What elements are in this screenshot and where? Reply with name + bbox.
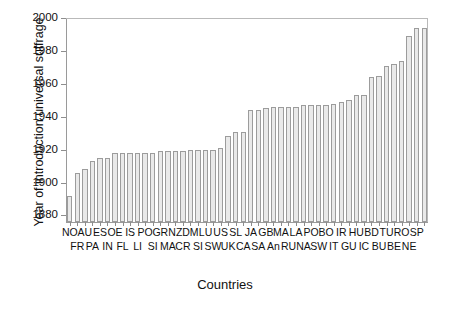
x-axis-tick-label: PO bbox=[138, 226, 153, 238]
bar bbox=[210, 150, 215, 222]
bar bbox=[406, 36, 411, 222]
x-axis-tick-label: MA bbox=[160, 240, 176, 252]
bar-chart: Year of introduction universal suffrage … bbox=[0, 0, 450, 309]
x-axis-tick-label: An bbox=[267, 240, 280, 252]
bar bbox=[188, 150, 193, 222]
bar bbox=[422, 28, 427, 222]
x-axis-tick-label: IN bbox=[102, 240, 113, 252]
bar bbox=[233, 132, 238, 222]
bar bbox=[308, 105, 313, 222]
bar bbox=[150, 153, 155, 222]
bar bbox=[127, 153, 132, 222]
x-axis-tick-label: MA bbox=[273, 226, 289, 238]
bar bbox=[263, 108, 268, 222]
bar bbox=[256, 110, 261, 222]
y-axis-tick bbox=[61, 150, 66, 151]
y-axis-tick-label: 1960 bbox=[18, 77, 58, 89]
x-axis-tick-label: IC bbox=[359, 240, 370, 252]
bar bbox=[339, 102, 344, 222]
bar bbox=[120, 153, 125, 222]
x-axis-line bbox=[66, 222, 428, 223]
x-axis-tick-label: NO bbox=[62, 226, 78, 238]
x-axis-tick-label: GB bbox=[258, 226, 273, 238]
bar bbox=[75, 173, 80, 222]
y-axis-tick-label: 1880 bbox=[18, 208, 58, 220]
y-axis-tick-label: 1980 bbox=[18, 44, 58, 56]
y-axis-tick bbox=[61, 215, 66, 216]
x-axis-tick-label: RU bbox=[281, 240, 296, 252]
x-axis-tick-label: AU bbox=[78, 226, 93, 238]
bar bbox=[414, 28, 419, 222]
x-axis-tick-label: LA bbox=[290, 226, 303, 238]
x-axis-tick-label: BO bbox=[319, 226, 334, 238]
x-axis-tick-label: TU bbox=[380, 226, 394, 238]
x-axis-tick-label: SW bbox=[310, 240, 327, 252]
bar-series bbox=[66, 18, 428, 222]
y-axis-tick bbox=[61, 117, 66, 118]
bar bbox=[67, 196, 72, 222]
y-axis-tick bbox=[61, 51, 66, 52]
bar bbox=[354, 95, 359, 222]
x-axis-tick-label: IT bbox=[329, 240, 338, 252]
y-axis-tick-label: 1920 bbox=[18, 143, 58, 155]
x-axis-tick-label: BE bbox=[387, 240, 401, 252]
x-axis-tick-label: UK bbox=[221, 240, 236, 252]
bar bbox=[301, 105, 306, 222]
bar bbox=[399, 61, 404, 222]
bar bbox=[241, 132, 246, 222]
x-axis-tick-label: ES bbox=[93, 226, 107, 238]
x-axis-tick-label: CR bbox=[175, 240, 190, 252]
bar bbox=[331, 104, 336, 222]
x-axis-tick-label: LI bbox=[133, 240, 142, 252]
y-axis-tick bbox=[61, 84, 66, 85]
x-axis-tick-label: CA bbox=[236, 240, 251, 252]
bar bbox=[316, 105, 321, 222]
x-axis-tick-label: RO bbox=[394, 226, 410, 238]
y-axis-title: Year of introduction universal suffrage bbox=[32, 7, 46, 237]
x-axis-tick-label: GU bbox=[341, 240, 357, 252]
x-axis-tick-label: NA bbox=[296, 240, 311, 252]
x-axis-tick-label: JA bbox=[245, 226, 257, 238]
x-axis-tick-label: DM bbox=[182, 226, 198, 238]
x-axis-title: Countries bbox=[0, 277, 450, 292]
bar bbox=[248, 110, 253, 222]
x-axis-tick-label: US bbox=[213, 226, 228, 238]
x-axis-tick-label: FR bbox=[70, 240, 84, 252]
bar bbox=[218, 148, 223, 222]
bar bbox=[391, 64, 396, 222]
y-axis-tick bbox=[61, 183, 66, 184]
x-axis-tick-label: LU bbox=[199, 226, 212, 238]
x-axis-tick-label: SL bbox=[229, 226, 242, 238]
x-axis-tick-label: BD bbox=[364, 226, 379, 238]
x-axis-tick-label: PA bbox=[86, 240, 99, 252]
y-axis-tick-label: 2000 bbox=[18, 11, 58, 23]
x-axis-tick-label: OE bbox=[107, 226, 122, 238]
bar bbox=[195, 150, 200, 222]
bar bbox=[203, 150, 208, 222]
bar bbox=[165, 151, 170, 222]
bar bbox=[361, 95, 366, 222]
bar bbox=[173, 151, 178, 222]
bar bbox=[82, 169, 87, 222]
bar bbox=[135, 153, 140, 222]
x-axis-tick-label: BU bbox=[372, 240, 387, 252]
bar bbox=[278, 107, 283, 222]
plot-area bbox=[66, 18, 428, 222]
y-axis-tick-label: 1900 bbox=[18, 176, 58, 188]
x-axis-tick-label: HU bbox=[349, 226, 364, 238]
bar bbox=[105, 158, 110, 222]
x-axis-tick-label: SA bbox=[251, 240, 265, 252]
x-axis-tick-label: PO bbox=[304, 226, 319, 238]
x-axis-tick-label: IR bbox=[336, 226, 347, 238]
bar bbox=[158, 151, 163, 222]
x-axis-tick-label: NZ bbox=[168, 226, 182, 238]
bar bbox=[180, 151, 185, 222]
bar bbox=[346, 100, 351, 222]
x-axis-tick-label: SI bbox=[193, 240, 203, 252]
x-axis-tick-label: FL bbox=[116, 240, 128, 252]
x-axis-tick-label: SP bbox=[410, 226, 424, 238]
bar bbox=[286, 107, 291, 222]
bar bbox=[369, 77, 374, 222]
x-axis-tick-labels: NOFRAUPAESINOEFLISLIPOSIGRMANZCRDMSILUSW… bbox=[66, 226, 428, 256]
bar bbox=[225, 136, 230, 222]
